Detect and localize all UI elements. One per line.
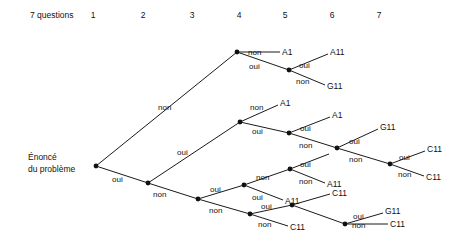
leaf-G11-mid: G11 [380,122,396,132]
leaf-C11-low: C11 [332,188,347,198]
edge-label-lowlower-non: non [258,220,271,229]
decision-tree-diagram: 7 questions 1 2 3 4 5 6 7 Énoncé du prob… [0,0,466,249]
leaf-C11-low3: C11 [390,219,405,229]
edge-cross-non-to-right [337,148,390,164]
edge-label-low-non: non [209,206,222,215]
edge-label-lowupper-non: oui [252,193,263,202]
edge-mid-oui-to-child [240,122,289,133]
node-low-upper-child [288,167,293,172]
edge-label-right-oui: oui [399,153,410,162]
leaf-A1-top: A1 [282,47,293,57]
edge-label-midchild-non: non [299,141,312,150]
node-low-upper [242,183,247,188]
edge-label-lowlower-oui: oui [261,202,272,211]
edge-label-level2-oui: oui [177,148,188,157]
node-mid [238,120,243,125]
edge-label-mid-oui: oui [252,127,263,136]
edge-label-group: non oui oui non non oui oui non non oui … [112,48,411,230]
edge-label-lowupper-oui: non [256,173,269,182]
edge-level2-to-mid [148,122,240,183]
edge-label-lownode-non: oui [300,160,311,169]
edge-label-mid-non: non [250,103,263,112]
edge-label-topchild-non: non [296,77,309,86]
column-header-3: 3 [190,10,195,20]
edge-label-bottom-non: non [352,221,365,230]
node-right [388,162,393,167]
root-label-line1: Énoncé [28,152,57,162]
root-label-line2: du problème [28,164,76,174]
node-mid-child [287,131,292,136]
leaf-C11-mid2: C11 [426,172,441,182]
edge-lowupper-non-to-A11 [244,185,283,200]
node-level2 [146,181,151,186]
edge-label-lownode-oui: non [299,177,312,186]
leaf-C11-low2: C11 [290,222,305,232]
node-top [235,50,240,55]
column-header-4: 4 [237,10,242,20]
leaf-A11-top: A11 [330,47,345,57]
edge-label-cross-oui: oui [349,137,360,146]
leaf-C11-mid: C11 [427,144,442,154]
node-low-lower [248,212,253,217]
node-cross [335,146,340,151]
edge-label-cross-non: non [349,155,362,164]
edge-label-root-oui: oui [112,175,123,184]
edge-label-top-oui: oui [249,62,260,71]
questions-caption: 7 questions [30,10,73,20]
leaf-A1-mid: A1 [280,98,291,108]
edge-label-bottom-oui: oui [353,212,364,221]
edge-label-root-non: non [158,103,171,112]
leaf-G11-top: G11 [327,81,343,91]
edge-low-oui-to-child [198,185,244,199]
column-header-7: 7 [377,10,382,20]
column-header-5: 5 [283,10,288,20]
edge-label-level2-non: non [153,190,166,199]
column-header-2: 2 [141,10,146,20]
column-header-6: 6 [330,10,335,20]
edge-label-topchild-oui: oui [299,61,310,70]
node-bottom [343,222,348,227]
edge-midchild-non-to-cross [289,133,337,148]
node-low [196,197,201,202]
node-root [94,164,99,169]
leaf-A1-mid2: A1 [332,110,343,120]
leaf-A11-low2: A11 [285,196,300,206]
column-header-1: 1 [91,10,96,20]
node-top-child [287,68,292,73]
edge-label-midchild-oui: oui [300,124,311,133]
leaf-G11-low: G11 [385,206,401,216]
node-dot-group [94,50,393,227]
leaf-label-group: A1 A11 G11 A1 A1 G11 C11 C11 A11 A11 C11… [280,47,442,232]
edge-label-top-non: non [248,48,261,57]
edge-label-right-non: non [398,170,411,179]
tree-svg-canvas: 7 questions 1 2 3 4 5 6 7 Énoncé du prob… [0,0,466,249]
edge-low-non-to-child [198,199,250,214]
edge-label-low-oui: oui [210,185,221,194]
